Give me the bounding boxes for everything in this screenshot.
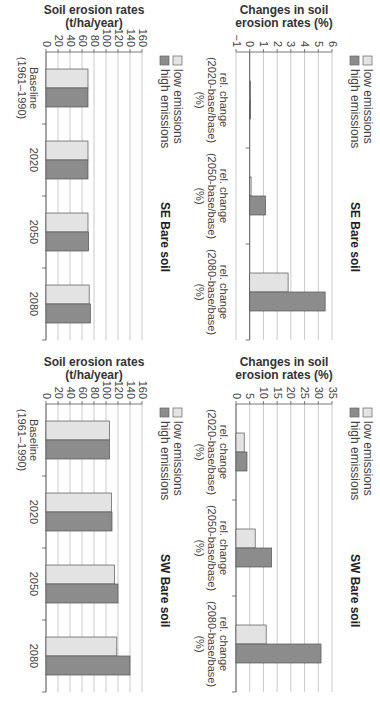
x-category-label: 2080: [28, 292, 40, 316]
chart-sw-relative-change: 05101520253035Changes in soilerosion rat…: [190, 352, 380, 704]
legend-label-low: low emissions: [171, 69, 185, 144]
y-tick-label: −1: [231, 34, 243, 47]
y-tick-label: 60: [77, 35, 89, 47]
y-axis-label: Soil erosion rates(t/ha/year): [44, 3, 145, 30]
y-tick-label: 2: [272, 41, 284, 47]
x-category-label: rel. change(2080-base/base)(%): [194, 601, 230, 687]
y-axis-label: Changes in soilerosion rates (%): [235, 3, 332, 30]
x-category-label: 2020: [28, 148, 40, 172]
legend-label-high: high emissions: [158, 421, 172, 500]
y-tick-label: 100: [101, 381, 113, 399]
x-category-label: rel. change(2050-base/base)(%): [194, 153, 230, 239]
y-tick-label: 0: [41, 393, 53, 399]
y-tick-label: 4: [299, 41, 311, 47]
y-tick-label: 0: [41, 41, 53, 47]
y-tick-label: 5: [313, 41, 325, 47]
bar-high-emissions: [46, 88, 88, 107]
y-tick-label: 160: [137, 381, 149, 399]
chart-title: SW Bare soil: [348, 554, 362, 627]
bar-low-emissions: [46, 493, 111, 512]
y-tick-label: 60: [77, 387, 89, 399]
x-category-label: Baseline(1961–1990): [16, 57, 40, 119]
y-tick-label: 80: [89, 387, 101, 399]
y-tick-label: 20: [285, 387, 297, 399]
y-axis-label: Changes in soilerosion rates (%): [235, 355, 332, 382]
y-tick-label: 40: [65, 387, 77, 399]
legend-swatch-high: [350, 408, 359, 417]
legend-swatch-low: [173, 56, 182, 65]
y-axis-label: Soil erosion rates(t/ha/year): [44, 355, 145, 382]
bar-low-emissions: [46, 421, 110, 440]
legend-swatch-low: [363, 408, 372, 417]
y-tick-label: 120: [113, 381, 125, 399]
bar-low-emissions: [46, 213, 88, 232]
legend-label-high: high emissions: [348, 421, 362, 500]
bar-low-emissions: [46, 637, 117, 656]
y-tick-label: 25: [299, 387, 311, 399]
y-tick-label: 30: [313, 387, 325, 399]
bar-low-emissions: [250, 81, 251, 100]
y-tick-label: 0: [231, 393, 243, 399]
bar-low-emissions: [46, 285, 89, 304]
x-category-label: 2050: [28, 220, 40, 244]
legend-label-low: low emissions: [361, 421, 375, 496]
y-tick-label: 140: [125, 29, 137, 47]
chart-title: SE Bare soil: [348, 202, 362, 272]
legend-swatch-high: [160, 56, 169, 65]
bar-high-emissions: [236, 644, 321, 663]
bar-high-emissions: [46, 160, 88, 179]
x-category-label: 2020: [28, 500, 40, 524]
x-category-label: rel. change(2020-base/base)(%): [194, 57, 230, 143]
y-tick-label: 0: [244, 41, 256, 47]
chart-sw-erosion-rates: 020406080100120140160Soil erosion rates(…: [0, 352, 190, 704]
y-tick-label: 6: [327, 41, 339, 47]
legend-swatch-low: [363, 56, 372, 65]
bar-high-emissions: [236, 548, 272, 567]
y-tick-label: 10: [258, 387, 270, 399]
bar-high-emissions: [46, 656, 130, 675]
bar-low-emissions: [236, 529, 255, 548]
x-category-label: Baseline(1961–1990): [16, 409, 40, 471]
y-tick-label: 120: [113, 29, 125, 47]
legend-label-high: high emissions: [348, 69, 362, 148]
bar-high-emissions: [46, 440, 110, 459]
y-tick-label: 140: [125, 381, 137, 399]
legend-swatch-low: [173, 408, 182, 417]
legend-swatch-high: [350, 56, 359, 65]
legend-label-low: low emissions: [171, 421, 185, 496]
bar-low-emissions: [236, 625, 266, 644]
y-tick-label: 20: [53, 387, 65, 399]
y-tick-label: 3: [285, 41, 297, 47]
bar-low-emissions: [236, 433, 244, 452]
y-tick-label: 80: [89, 35, 101, 47]
legend-label-low: low emissions: [361, 69, 375, 144]
y-tick-label: 100: [101, 29, 113, 47]
bar-high-emissions: [46, 304, 90, 323]
chart-title: SE Bare soil: [158, 202, 172, 272]
bar-low-emissions: [46, 69, 88, 88]
bar-high-emissions: [46, 232, 89, 251]
x-category-label: rel. change(2050-base/base)(%): [194, 505, 230, 591]
y-tick-label: 35: [327, 387, 339, 399]
bar-low-emissions: [250, 177, 251, 196]
bar-high-emissions: [46, 584, 118, 603]
chart-se-relative-change: −10123456Changes in soilerosion rates (%…: [190, 0, 380, 352]
bar-high-emissions: [236, 452, 247, 471]
y-tick-label: 15: [272, 387, 284, 399]
x-category-label: rel. change(2080-base/base)(%): [194, 249, 230, 335]
bar-low-emissions: [46, 565, 114, 584]
y-tick-label: 20: [53, 35, 65, 47]
bar-high-emissions: [250, 292, 325, 311]
y-tick-label: 5: [244, 393, 256, 399]
bar-high-emissions: [250, 100, 251, 119]
chart-title: SW Bare soil: [158, 554, 172, 627]
y-tick-label: 160: [137, 29, 149, 47]
bar-low-emissions: [46, 141, 88, 160]
chart-se-erosion-rates: 020406080100120140160Soil erosion rates(…: [0, 0, 190, 352]
x-category-label: rel. change(2020-base/base)(%): [194, 409, 230, 495]
legend-label-high: high emissions: [158, 69, 172, 148]
y-tick-label: 1: [258, 41, 270, 47]
bar-high-emissions: [46, 512, 112, 531]
bar-low-emissions: [250, 273, 288, 292]
bar-high-emissions: [250, 196, 266, 215]
